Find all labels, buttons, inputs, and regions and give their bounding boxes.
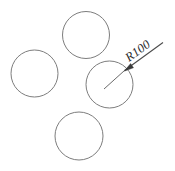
circle-top[interactable] <box>63 12 110 59</box>
drawing-svg: R100 <box>0 0 175 171</box>
technical-drawing-canvas: R100 <box>0 0 175 171</box>
circle-left[interactable] <box>11 50 58 97</box>
radius-leader-line[interactable] <box>104 71 125 90</box>
circle-bottom[interactable] <box>55 112 103 160</box>
